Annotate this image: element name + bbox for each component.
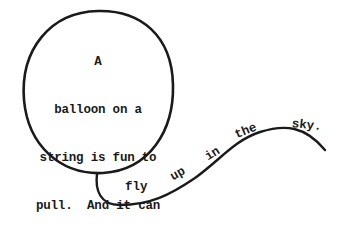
poem-line: balloon on a [23, 102, 173, 118]
poem-line: pull. And it can [23, 198, 173, 214]
poem-line: string is fun to [23, 150, 173, 166]
string-word-fly: fly [125, 180, 148, 194]
poem-text: A balloon on a string is fun to pull. An… [23, 22, 173, 218]
poem-line: A [23, 54, 173, 70]
string-word-sky: sky. [291, 117, 322, 134]
